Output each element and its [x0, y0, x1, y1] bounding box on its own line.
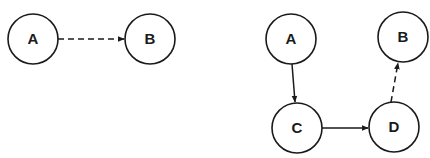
node-d: D [369, 102, 419, 152]
node-label: A [28, 30, 39, 47]
edge-a-to-c-arrow [292, 64, 295, 102]
diagram-canvas: ABABCD [0, 0, 430, 158]
nodes-layer: ABABCD [8, 12, 428, 153]
node-b: B [378, 12, 428, 62]
node-label: A [286, 30, 297, 47]
node-b: B [125, 14, 175, 64]
node-label: B [145, 30, 156, 47]
node-label: B [398, 28, 409, 45]
edges-layer [58, 39, 398, 128]
edge-d-to-b-arrow [391, 63, 398, 102]
right-diagram-nodes: ABCD [266, 12, 428, 153]
node-c: C [272, 103, 322, 153]
node-a: A [8, 14, 58, 64]
node-label: C [292, 119, 303, 136]
node-label: D [389, 118, 400, 135]
node-a: A [266, 14, 316, 64]
